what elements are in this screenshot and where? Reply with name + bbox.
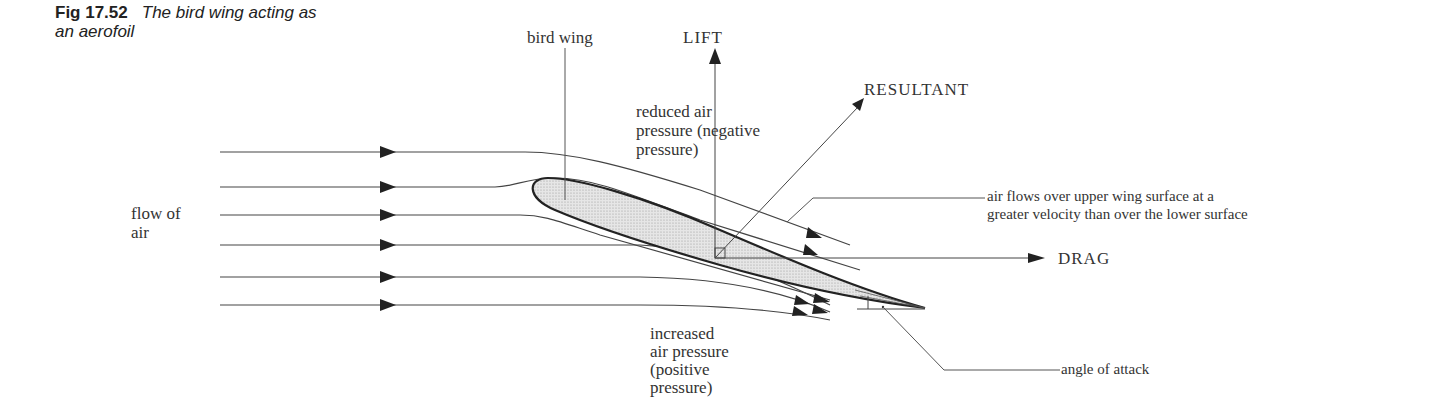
drag-label: DRAG <box>1058 249 1110 268</box>
arrowhead-icon <box>812 304 828 314</box>
arrowhead-icon <box>380 146 396 158</box>
resultant-arrowhead-icon <box>852 98 864 111</box>
figure-title-line2: an aerofoil <box>55 22 134 41</box>
streamline-6 <box>220 305 830 320</box>
airflow-lines <box>220 152 860 320</box>
resultant-label: RESULTANT <box>864 80 969 99</box>
arrowhead-icon <box>792 306 808 316</box>
aerofoil-diagram: Fig 17.52The bird wing acting as an aero… <box>0 0 1438 415</box>
drag-arrowhead-icon <box>1028 253 1045 263</box>
arrowhead-icon <box>380 239 396 251</box>
upper-surface-note: air flows over upper wing surface at a g… <box>987 187 1248 223</box>
increased-pressure-label: increased air pressure (positive pressur… <box>650 325 729 397</box>
angle-of-attack-leader <box>883 307 1060 370</box>
angle-of-attack-label: angle of attack <box>1061 360 1149 379</box>
reduced-pressure-label: reduced air pressure (negative pressure) <box>636 102 760 159</box>
figure-number: Fig 17.52 <box>55 3 128 22</box>
arrowhead-icon <box>794 295 810 305</box>
arrowhead-icon <box>380 271 396 283</box>
bird-wing-label: bird wing <box>527 28 593 47</box>
upper-surface-leader <box>787 198 985 222</box>
arrowhead-icon <box>380 299 396 311</box>
flow-of-air-label: flow of air <box>131 204 181 242</box>
lift-arrowhead-icon <box>709 48 721 64</box>
streamline-5 <box>220 277 830 312</box>
lift-label: LIFT <box>683 28 723 47</box>
streamline-1 <box>220 152 850 245</box>
arrowhead-icon <box>380 209 396 221</box>
arrowhead-icon <box>803 244 818 255</box>
figure-caption: Fig 17.52The bird wing acting as an aero… <box>55 3 345 41</box>
arrowhead-icon <box>813 293 830 303</box>
arrowhead-icon <box>380 181 396 193</box>
figure-title-line1: The bird wing acting as <box>142 3 317 22</box>
arrowhead-icon <box>806 227 822 238</box>
